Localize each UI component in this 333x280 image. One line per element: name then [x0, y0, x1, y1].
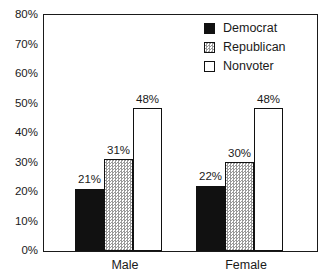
bar-value-female-republican: 30% [218, 147, 261, 159]
bar-male-democrat [75, 189, 104, 252]
bar-value-male-republican: 31% [97, 144, 140, 156]
bar-value-female-nonvoter: 48% [247, 93, 290, 105]
y-axis-label-40: 40% [0, 127, 38, 139]
legend-label-republican: Republican [223, 41, 286, 54]
bar-male-nonvoter [133, 108, 162, 251]
y-axis-label-0: 0% [0, 245, 38, 257]
bar-value-female-democrat: 22% [189, 170, 232, 182]
y-axis-label-10: 10% [0, 216, 38, 228]
y-axis-label-60: 60% [0, 68, 38, 80]
bar-value-male-nonvoter: 48% [126, 93, 169, 105]
bar-female-nonvoter [254, 108, 283, 251]
legend-swatch-nonvoter-icon [204, 61, 215, 72]
x-axis-label-female: Female [216, 258, 276, 272]
plot-area: 21% 31% 48% 22% 30% 48% Democrat Republi… [43, 14, 318, 252]
legend-label-nonvoter: Nonvoter [223, 60, 274, 73]
legend-swatch-democrat-icon [204, 23, 215, 34]
bar-value-male-democrat: 21% [68, 173, 111, 185]
y-axis-label-30: 30% [0, 157, 38, 169]
legend-label-democrat: Democrat [223, 22, 277, 35]
legend-item-nonvoter: Nonvoter [204, 60, 286, 73]
bar-chart: 80% 70% 60% 50% 40% 30% 20% 10% 0% 21% 3… [0, 0, 333, 280]
y-axis-label-20: 20% [0, 186, 38, 198]
x-axis-label-male: Male [95, 258, 155, 272]
legend-swatch-republican-icon [204, 42, 215, 53]
y-axis-label-80: 80% [0, 9, 38, 21]
y-axis-label-70: 70% [0, 39, 38, 51]
legend-item-democrat: Democrat [204, 22, 286, 35]
legend-item-republican: Republican [204, 41, 286, 54]
y-axis-label-50: 50% [0, 98, 38, 110]
legend: Democrat Republican Nonvoter [204, 22, 286, 73]
bar-female-democrat [196, 186, 225, 251]
